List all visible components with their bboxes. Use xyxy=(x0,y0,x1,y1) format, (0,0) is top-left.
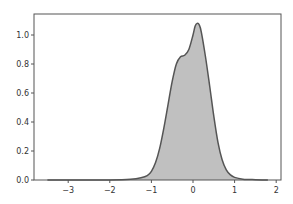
x-tick-label: −3 xyxy=(62,186,74,195)
density-chart: −3−2−1012 0.00.20.40.60.81.0 xyxy=(0,0,293,204)
x-tick-label: 2 xyxy=(274,186,279,195)
x-tick-label: −1 xyxy=(146,186,158,195)
x-tick-label: 0 xyxy=(190,186,195,195)
x-tick-label: −2 xyxy=(104,186,116,195)
y-tick-label: 0.4 xyxy=(16,118,29,127)
y-tick-label: 0.6 xyxy=(16,89,29,98)
y-tick-label: 1.0 xyxy=(16,31,29,40)
y-axis: 0.00.20.40.60.81.0 xyxy=(16,31,34,185)
plot-area xyxy=(47,23,267,180)
density-line xyxy=(47,23,267,180)
y-tick-label: 0.8 xyxy=(16,60,29,69)
y-tick-label: 0.0 xyxy=(16,176,29,185)
x-axis: −3−2−1012 xyxy=(62,180,278,195)
y-tick-label: 0.2 xyxy=(16,147,29,156)
x-tick-label: 1 xyxy=(232,186,237,195)
